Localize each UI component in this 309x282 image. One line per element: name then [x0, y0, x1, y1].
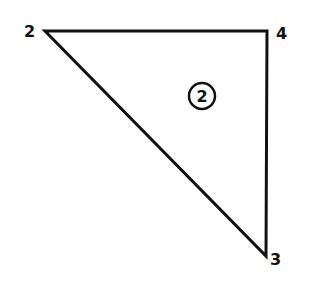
node-label-4: 4: [276, 24, 287, 43]
element-number-label: 2: [196, 87, 207, 106]
node-label-2: 2: [24, 22, 35, 41]
triangle-element-outline: [45, 31, 267, 256]
triangle-diagram: 2 4 3 2: [0, 0, 309, 282]
node-label-3: 3: [270, 250, 281, 269]
